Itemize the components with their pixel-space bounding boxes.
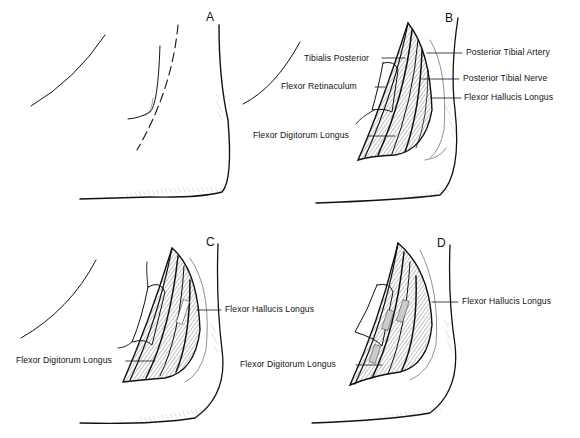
label-flexor-digitorum-longus-d: Flexor Digitorum Longus <box>240 359 336 369</box>
label-posterior-tibial-nerve: Posterior Tibial Nerve <box>463 73 547 83</box>
label-flexor-retinaculum: Flexor Retinaculum <box>281 81 357 91</box>
panel-c-drawing <box>21 244 223 423</box>
label-flexor-hallucis-longus-b: Flexor Hallucis Longus <box>464 92 553 102</box>
panel-letter-d: D <box>437 236 446 250</box>
label-flexor-digitorum-longus-b: Flexor Digitorum Longus <box>253 130 349 140</box>
label-tibialis-posterior: Tibialis Posterior <box>304 53 369 63</box>
panel-d-drawing <box>312 243 456 423</box>
panel-letter-a: A <box>206 10 214 24</box>
label-flexor-hallucis-longus-c: Flexor Hallucis Longus <box>225 304 314 314</box>
panel-b-drawing <box>243 18 458 203</box>
label-flexor-hallucis-longus-d: Flexor Hallucis Longus <box>462 296 551 306</box>
label-posterior-tibial-artery: Posterior Tibial Artery <box>466 47 550 57</box>
anatomical-drawing <box>0 0 580 438</box>
panel-letter-b: B <box>445 11 453 25</box>
panel-a-drawing <box>31 25 230 199</box>
panel-letter-c: C <box>206 235 215 249</box>
label-flexor-digitorum-longus-c: Flexor Digitorum Longus <box>16 355 112 365</box>
